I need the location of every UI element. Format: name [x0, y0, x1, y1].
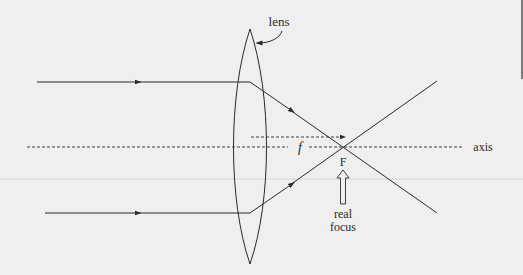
lens-shape [234, 29, 267, 264]
real-focus-label-line1: real [334, 207, 353, 221]
lens-pointer-arrow [259, 31, 282, 43]
focal-length-label: f [298, 140, 304, 155]
real-focus-label-line2: focus [330, 220, 356, 234]
real-focus-arrow-icon [337, 170, 349, 204]
lens-label: lens [269, 14, 290, 29]
focus-point-label: F [340, 155, 347, 169]
lens-ray-diagram: lens f F axis real focus [0, 0, 523, 275]
axis-label: axis [473, 140, 493, 154]
